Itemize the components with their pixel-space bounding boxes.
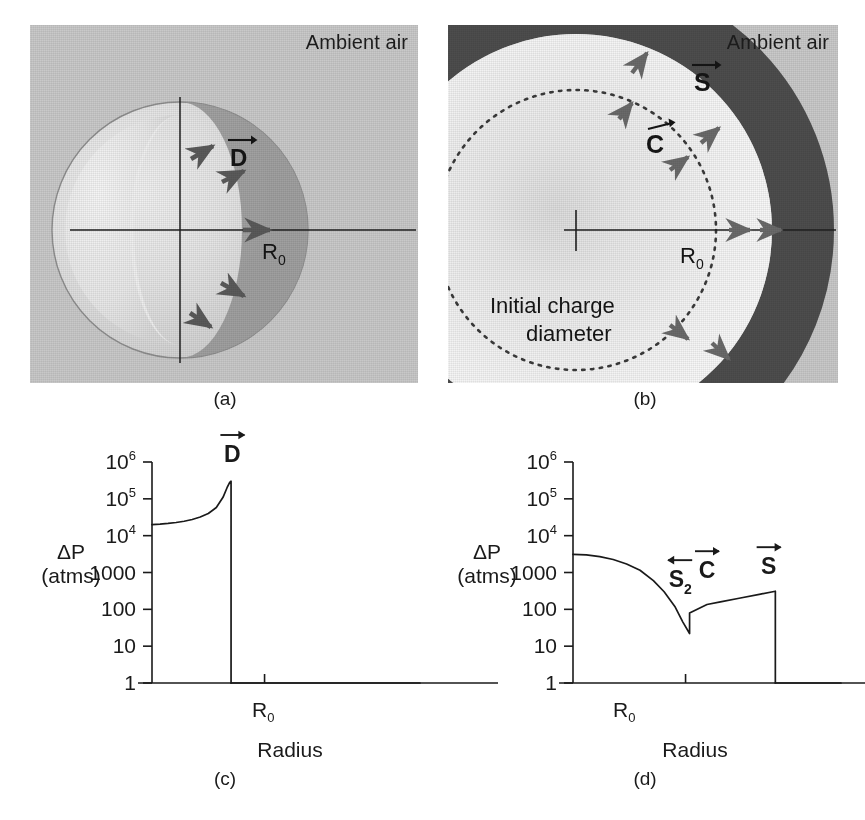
panel-a-svg: D R0 <box>30 25 418 383</box>
chart-d-x-axis-title: Radius <box>635 738 755 762</box>
svg-c-y-tick-label: 106 <box>105 448 136 473</box>
chart-d-y-axis-symbol: ΔP <box>473 540 501 563</box>
svg-c-y-tick-exponent: 6 <box>129 448 136 463</box>
chart-c-panel: 1061051041000100101D ΔP (atms) Radius R0 <box>0 430 432 820</box>
panel-d-caption: (d) <box>615 768 675 790</box>
svg-d-annotation-sub: 2 <box>684 581 692 597</box>
svg-d-y-tick-label: 10 <box>534 634 557 657</box>
svg-c-annotation-d: D <box>224 441 241 467</box>
chart-c-y-axis-symbol: ΔP <box>57 540 85 563</box>
svg-d-annotation-arrow-head-0 <box>667 556 674 565</box>
chart-d-y-axis-unit: (atms) <box>457 564 517 587</box>
chart-c-x-axis-title: Radius <box>230 738 350 762</box>
vector-c-label: C <box>646 130 664 158</box>
chart-c-y-axis-unit: (atms) <box>41 564 101 587</box>
panel-b-svg: S C R0 Initial charge diameter <box>448 25 838 383</box>
chart-d-r0-tick-label: R0 <box>613 698 635 725</box>
svg-d-y-tick-exponent: 5 <box>550 485 557 500</box>
panel-a-diagram: D R0 Ambient air <box>30 25 418 383</box>
svg-c-annotation-arrow-head-0 <box>238 431 245 440</box>
chart-d-panel: 1061051041000100101S2CS ΔP (atms) Radius… <box>420 430 860 820</box>
svg-d-y-tick-label: 104 <box>526 522 557 547</box>
panel-b-diagram: S C R0 Initial charge diameter Ambient a… <box>448 25 838 383</box>
svg-d-annotation-arrow-head-1 <box>713 547 720 556</box>
panel-a-ambient-air-label: Ambient air <box>306 31 408 54</box>
svg-c-y-tick-label: 105 <box>105 485 136 510</box>
svg-c-y-tick-exponent: 4 <box>129 522 136 537</box>
svg-c-y-tick-label: 100 <box>101 597 136 620</box>
vector-s-label: S <box>694 68 711 96</box>
chart-c-r0-sub: 0 <box>267 710 274 725</box>
svg-d-y-tick-label: 105 <box>526 485 557 510</box>
svg-d-y-tick-label: 1 <box>545 671 557 694</box>
svg-d-y-tick-label: 106 <box>526 448 557 473</box>
svg-d-y-tick-label: 100 <box>522 597 557 620</box>
svg-c-y-tick-exponent: 5 <box>129 485 136 500</box>
svg-d-annotation-s2: S2 <box>669 566 692 597</box>
panel-c-caption: (c) <box>195 768 255 790</box>
chart-d-y-axis-title: ΔP (atms) <box>446 540 528 588</box>
panel-b-ambient-air-label: Ambient air <box>727 31 829 54</box>
svg-c-y-tick-label: 1 <box>124 671 136 694</box>
chart-c-y-axis-title: ΔP (atms) <box>30 540 112 588</box>
svg-c-y-tick-label: 10 <box>113 634 136 657</box>
initial-charge-line2: diameter <box>526 321 612 346</box>
svg-c-series-0 <box>152 481 231 683</box>
panel-a-r0-subscript: 0 <box>278 252 286 268</box>
svg-d-annotation-c: C <box>699 557 716 583</box>
panel-a-caption: (a) <box>195 388 255 410</box>
vector-d-label: D <box>230 144 247 171</box>
svg-d-y-tick-exponent: 4 <box>550 522 557 537</box>
svg-d-y-tick-exponent: 6 <box>550 448 557 463</box>
panel-b-caption: (b) <box>615 388 675 410</box>
panel-b-r0-subscript: 0 <box>696 256 704 272</box>
svg-d-annotation-arrow-head-2 <box>775 543 782 552</box>
chart-d-r0-sub: 0 <box>628 710 635 725</box>
svg-d-annotation-s: S <box>761 553 776 579</box>
chart-c-r0-tick-label: R0 <box>252 698 274 725</box>
initial-charge-line1: Initial charge <box>490 293 615 318</box>
